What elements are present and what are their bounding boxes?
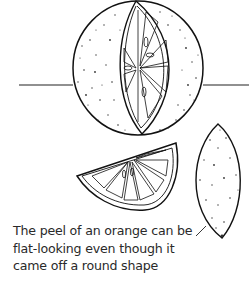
caption: The peel of an orange can be flat-lookin… [13,222,192,275]
caption-line-1: The peel of an orange can be [13,222,192,240]
caption-line-3: came off a round shape [13,257,192,275]
pointer-line [196,226,206,236]
whole-orange-icon [73,1,203,135]
orange-wedge-icon [77,143,178,210]
flat-peel-icon [196,124,240,238]
caption-line-2: flat-looking even though it [13,240,192,258]
